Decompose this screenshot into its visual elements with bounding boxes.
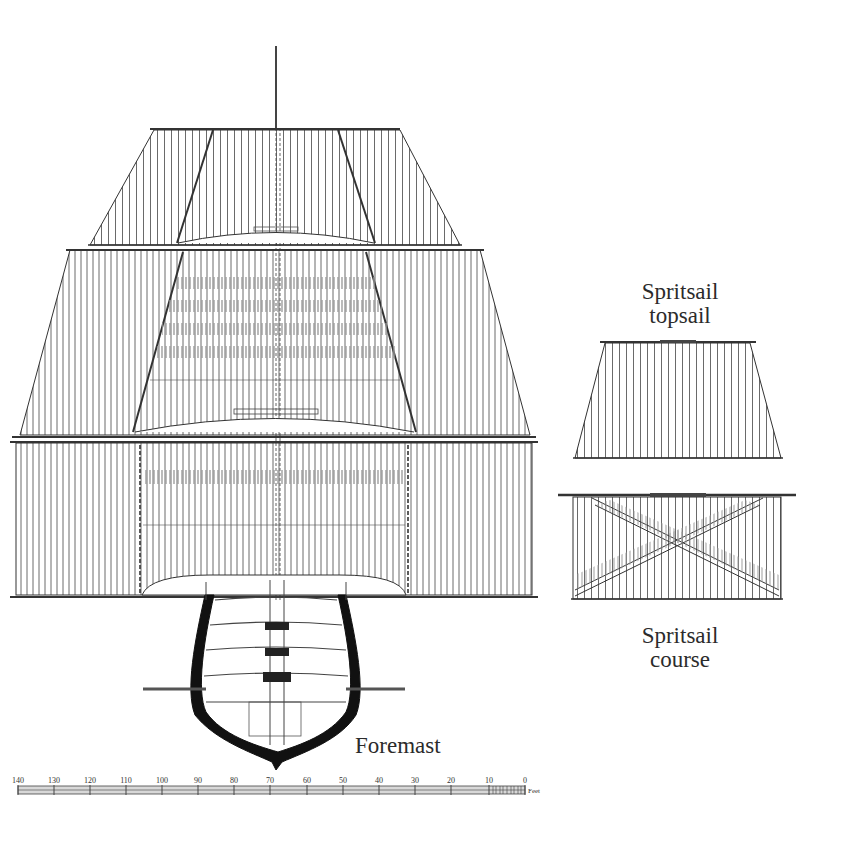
scale-tick-label: 20: [447, 776, 455, 785]
scale-unit-label: Feet: [528, 787, 540, 795]
spritsail-course: [558, 493, 796, 599]
scale-tick-label: 100: [156, 776, 168, 785]
foremast-diagram: [0, 0, 848, 841]
scale-tick-label: 0: [523, 776, 527, 785]
scale-bar: [18, 785, 525, 795]
spritsail-course-label-line1: Spritsail: [600, 624, 760, 648]
foremast-label: Foremast: [355, 734, 441, 758]
scale-tick-label: 50: [339, 776, 347, 785]
spritsail-course-label-line2: course: [600, 648, 760, 672]
spritsail-topsail-label: Spritsail topsail: [600, 280, 760, 328]
spritsail-course-label: Spritsail course: [600, 624, 760, 672]
scale-tick-label: 70: [266, 776, 274, 785]
scale-tick-label: 10: [485, 776, 493, 785]
scale-tick-label: 130: [48, 776, 60, 785]
scale-tick-label: 110: [120, 776, 132, 785]
spritsail-topsail: [573, 340, 783, 458]
scale-tick-label: 140: [12, 776, 24, 785]
fore-topgallant-sail: [88, 129, 462, 245]
scale-tick-label: 90: [194, 776, 202, 785]
spritsail-topsail-label-line2: topsail: [600, 304, 760, 328]
scale-tick-label: 40: [375, 776, 383, 785]
scale-tick-label: 120: [84, 776, 96, 785]
fore-topsail: [12, 250, 536, 437]
scale-tick-label: 60: [303, 776, 311, 785]
scale-tick-label: 30: [411, 776, 419, 785]
fore-course-sail: [10, 442, 538, 597]
scale-tick-label: 80: [230, 776, 238, 785]
spritsail-topsail-label-line1: Spritsail: [600, 280, 760, 304]
